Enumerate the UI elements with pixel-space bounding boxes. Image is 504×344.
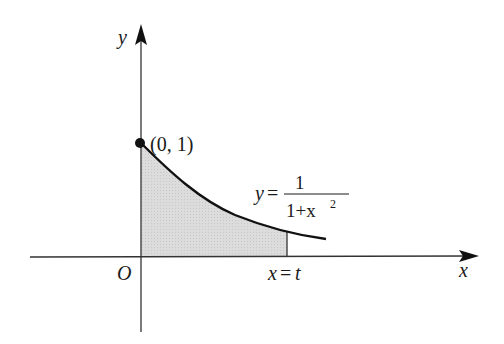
x-axis-label: x <box>458 259 468 281</box>
svg-text:1+x: 1+x <box>286 200 316 221</box>
point-marker <box>135 138 145 148</box>
boundary-label: x = t <box>267 262 301 284</box>
x-axis <box>30 256 468 257</box>
svg-text:x: x <box>267 262 277 284</box>
point-label: (0, 1) <box>150 133 193 156</box>
svg-text:=: = <box>280 262 291 284</box>
svg-text:=: = <box>267 182 278 204</box>
curve-equation: y = 1 1+x 2 <box>253 172 349 221</box>
shaded-area <box>141 143 287 257</box>
function-graph: y x O (0, 1) y = 1 1+x 2 x = t <box>0 0 504 344</box>
svg-text:y: y <box>253 182 264 205</box>
y-axis-label: y <box>116 26 127 49</box>
svg-text:1: 1 <box>295 172 305 193</box>
origin-label: O <box>117 262 131 284</box>
svg-text:t: t <box>295 262 301 284</box>
svg-text:2: 2 <box>330 197 336 211</box>
